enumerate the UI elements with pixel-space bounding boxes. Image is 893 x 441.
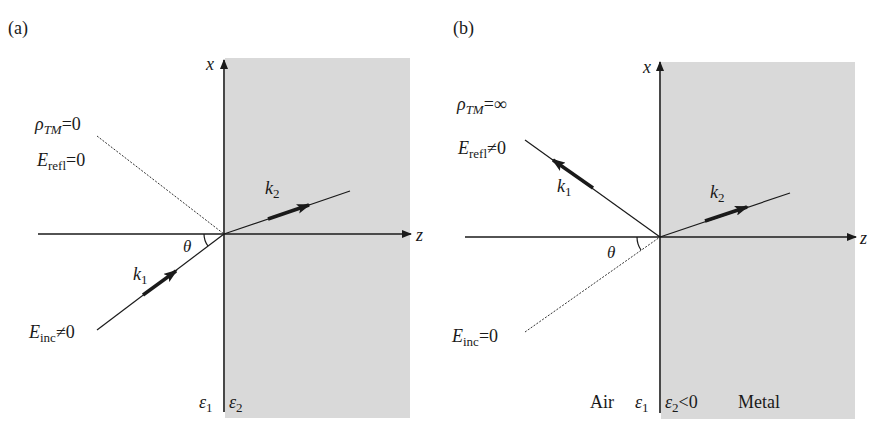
- e-refl-label: Erefl≠0: [457, 138, 506, 161]
- k1-arrow: [143, 271, 176, 295]
- theta-label: θ: [183, 237, 191, 256]
- k1-label: k1: [557, 176, 572, 199]
- incident-ray-dotted: [525, 237, 660, 332]
- rho-tm-label: ρTM=∞: [456, 94, 507, 117]
- z-axis-label: z: [415, 225, 423, 245]
- diagram-svg: (a) x z θ ρTM=0 Erefl=0 Einc≠0 k1: [0, 0, 893, 441]
- x-axis-label: x: [642, 57, 651, 77]
- diagram-stage: (a) x z θ ρTM=0 Erefl=0 Einc≠0 k1: [0, 0, 893, 441]
- theta-label: θ: [607, 243, 615, 262]
- x-axis-label: x: [205, 54, 214, 74]
- metal-region: [661, 62, 855, 419]
- air-label: Air: [590, 392, 614, 412]
- panel-b: (b) x z θ ρTM=∞ Erefl≠0 Einc=0 k1: [451, 18, 867, 419]
- z-axis-label: z: [859, 228, 867, 248]
- panel-a-tag: (a): [8, 18, 28, 39]
- panel-b-tag: (b): [453, 18, 474, 39]
- e-refl-label: Erefl=0: [36, 150, 85, 173]
- theta-arc: [637, 237, 641, 250]
- eps1-label: ε1: [199, 392, 213, 415]
- k1-label: k1: [133, 264, 148, 287]
- eps2-label: ε2<0: [665, 392, 698, 415]
- metal-label: Metal: [738, 392, 780, 412]
- e-inc-label: Einc≠0: [28, 322, 75, 345]
- rho-tm-label: ρTM=0: [34, 114, 81, 137]
- reflected-ray-dotted: [97, 136, 224, 234]
- theta-arc: [204, 234, 208, 246]
- eps1-label: ε1: [635, 392, 649, 415]
- panel-a: (a) x z θ ρTM=0 Erefl=0 Einc≠0 k1: [8, 18, 423, 418]
- medium-2-region: [225, 58, 410, 418]
- e-inc-label: Einc=0: [451, 326, 498, 349]
